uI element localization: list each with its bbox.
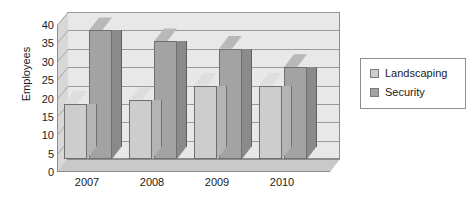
y-axis-tick-5: 5	[28, 148, 54, 159]
y-axis-tick-35: 35	[28, 38, 54, 49]
bar-side-face	[307, 67, 317, 159]
x-axis-tick-2008: 2008	[140, 176, 164, 188]
bar-landscaping-2008	[129, 100, 152, 159]
bar-side-face	[112, 30, 122, 159]
legend-item-security: Security	[370, 87, 425, 98]
x-axis-tick-2007: 2007	[75, 176, 99, 188]
y-axis-tick-40: 40	[28, 20, 54, 31]
y-axis-tick-labels: 0510152025303540	[28, 0, 54, 199]
legend-label-security: Security	[385, 87, 425, 98]
bar-landscaping-2010	[259, 86, 282, 160]
bar-landscaping-2009	[194, 86, 217, 160]
bar-front-face	[129, 100, 152, 159]
plot-floor-back-line	[67, 159, 340, 160]
bar-front-face	[194, 86, 217, 160]
bar-landscaping-2007	[64, 104, 87, 159]
plot-area	[57, 12, 340, 172]
y-axis-tick-0: 0	[28, 167, 54, 178]
y-axis-tick-30: 30	[28, 56, 54, 67]
legend-label-landscaping: Landscaping	[385, 68, 447, 79]
bar-front-face	[64, 104, 87, 159]
plot-floor-front-line	[57, 171, 330, 172]
legend: Landscaping Security	[360, 58, 466, 109]
legend-item-landscaping: Landscaping	[370, 68, 447, 79]
y-axis-tick-20: 20	[28, 93, 54, 104]
x-axis-tick-2010: 2010	[270, 176, 294, 188]
legend-swatch-landscaping	[370, 69, 379, 78]
bar-side-face	[242, 49, 252, 159]
y-axis-tick-15: 15	[28, 111, 54, 122]
y-axis-tick-25: 25	[28, 75, 54, 86]
x-axis-tick-2009: 2009	[205, 176, 229, 188]
bar-chart: Employees 0510152025303540 2007200820092…	[0, 0, 475, 199]
legend-swatch-security	[370, 88, 379, 97]
x-axis-tick-labels: 2007200820092010	[57, 176, 340, 192]
gridline-40	[68, 12, 339, 13]
y-axis-tick-10: 10	[28, 130, 54, 141]
bar-front-face	[259, 86, 282, 160]
bar-side-face	[177, 41, 187, 159]
